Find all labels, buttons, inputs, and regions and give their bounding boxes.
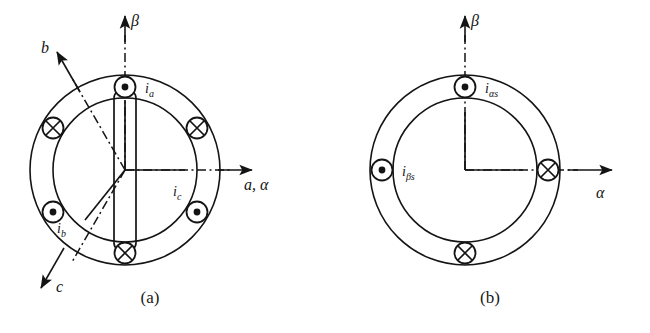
svg-text:iαs: iαs bbox=[485, 81, 498, 99]
svg-text:iβs: iβs bbox=[402, 164, 415, 182]
panel-a-ia-sub: a bbox=[149, 88, 154, 99]
panel-a-label-ia: ia bbox=[145, 81, 154, 99]
figure-root: β a, α b c ia ic ib bbox=[0, 0, 650, 333]
panel-a-conductor-cross-270 bbox=[115, 243, 136, 264]
panel-a-conductor-ia bbox=[115, 77, 136, 98]
panel-a-label-ic: ic bbox=[173, 184, 182, 202]
panel-a-conductor-ib bbox=[43, 202, 64, 223]
caption-panel-a: (a) bbox=[110, 288, 190, 308]
panel-a-group: β a, α b c ia ic ib bbox=[30, 12, 269, 295]
panel-a-b-axis-label: b bbox=[41, 39, 49, 56]
panel-a-conductor-ic bbox=[187, 202, 208, 223]
panel-b-alpha-axis-label: α bbox=[596, 184, 605, 201]
motor-winding-diagram: β a, α b c ia ic ib bbox=[0, 0, 650, 333]
panel-a-label-ib: ib bbox=[57, 221, 66, 239]
panel-b-conductor-ibetas bbox=[372, 160, 393, 181]
panel-a-ic-sub: c bbox=[177, 191, 182, 202]
svg-text:ic: ic bbox=[173, 184, 182, 202]
panel-a-beta-axis-label: β bbox=[130, 12, 139, 30]
panel-a-conductor-cross-150 bbox=[43, 118, 64, 139]
panel-a-ib-sub: b bbox=[61, 228, 66, 239]
panel-b-beta-axis-label: β bbox=[470, 12, 479, 30]
panel-a-center-leg-lower-left bbox=[85, 170, 125, 220]
panel-b-ialphas-sub: αs bbox=[489, 88, 498, 99]
panel-a-c-axis-label: c bbox=[56, 278, 63, 295]
panel-b-conductor-ialphas bbox=[455, 77, 476, 98]
panel-b-group: β α iαs iβs bbox=[370, 12, 612, 265]
panel-b-ibetas-sub: βs bbox=[405, 171, 415, 182]
panel-b-conductor-cross-0 bbox=[538, 160, 559, 181]
panel-a-conductor-cross-30 bbox=[187, 118, 208, 139]
panel-b-conductor-cross-270 bbox=[455, 243, 476, 264]
caption-panel-b: (b) bbox=[450, 288, 530, 308]
svg-text:ia: ia bbox=[145, 81, 154, 99]
panel-a-alpha-axis-label: a, α bbox=[244, 176, 269, 193]
panel-b-label-ibetas: iβs bbox=[402, 164, 415, 182]
panel-a-b-axis-arrow bbox=[57, 52, 80, 92]
panel-b-label-ialphas: iαs bbox=[485, 81, 498, 99]
svg-text:ib: ib bbox=[57, 221, 66, 239]
